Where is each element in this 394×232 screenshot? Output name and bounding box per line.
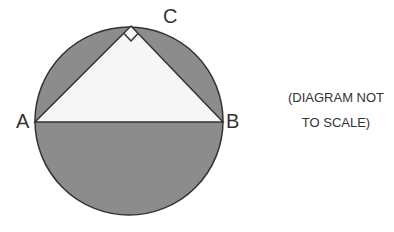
not-to-scale-note-line2: TO SCALE) xyxy=(276,116,394,129)
not-to-scale-note-line1: (DIAGRAM NOT xyxy=(276,91,394,104)
vertex-label-a: A xyxy=(16,111,29,131)
vertex-label-c: C xyxy=(163,6,177,26)
vertex-label-b: B xyxy=(226,111,239,131)
